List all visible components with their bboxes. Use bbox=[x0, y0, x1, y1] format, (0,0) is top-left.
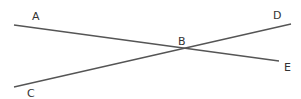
intersecting-lines-diagram: A B C D E bbox=[0, 0, 301, 99]
point-label-c: C bbox=[27, 87, 35, 99]
point-label-b: B bbox=[178, 35, 186, 48]
line-cd bbox=[14, 24, 291, 87]
point-label-e: E bbox=[284, 61, 291, 74]
point-label-d: D bbox=[273, 9, 281, 22]
point-label-a: A bbox=[32, 10, 40, 23]
line-ae bbox=[14, 25, 279, 61]
